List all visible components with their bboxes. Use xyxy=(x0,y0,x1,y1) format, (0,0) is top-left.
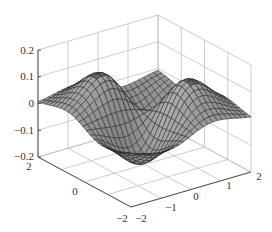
x-tick-0: 0 xyxy=(193,190,199,202)
x-tick-neg2: −2 xyxy=(135,212,147,224)
x-tick-1: 1 xyxy=(226,179,232,191)
surface-plot: 0.2 0.1 0 −0.1 −0.2 2 0 −2 −2 −1 0 1 2 xyxy=(0,0,272,232)
y-tick-2: 2 xyxy=(26,160,32,172)
x-tick-2: 2 xyxy=(256,170,262,182)
z-tick-0: 0 xyxy=(29,97,35,109)
y-tick-0: 0 xyxy=(72,185,78,197)
z-tick-0.1: 0.1 xyxy=(20,70,34,82)
surface-mesh xyxy=(38,70,251,164)
y-tick-neg2: −2 xyxy=(116,212,128,224)
x-tick-neg1: −1 xyxy=(165,201,177,213)
z-tick-neg0.1: −0.1 xyxy=(14,124,34,136)
z-tick-0.2: 0.2 xyxy=(20,44,34,56)
